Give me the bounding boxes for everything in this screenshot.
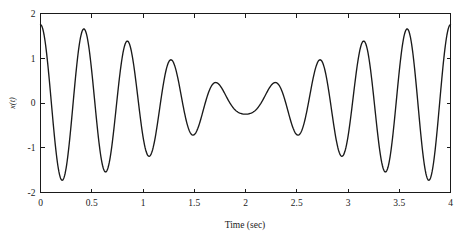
y-axis-ticks xyxy=(41,58,451,148)
x-tick-label: 4 xyxy=(448,198,453,208)
x-tick-label: 3 xyxy=(346,198,351,208)
x-tick-label: 1 xyxy=(141,198,146,208)
x-tick-label: 2 xyxy=(243,198,248,208)
x-tick-label: 0.5 xyxy=(86,198,98,208)
x-axis-title: Time (sec) xyxy=(225,220,266,231)
y-axis-tick-labels: -2-1012 xyxy=(28,9,36,198)
x-tick-label: 3.5 xyxy=(393,198,405,208)
series-line-x-of-t xyxy=(41,25,451,181)
x-tick-label: 2.5 xyxy=(291,198,303,208)
x-axis-tick-labels: 00.511.522.533.54 xyxy=(38,198,453,208)
y-tick-label: -2 xyxy=(28,188,36,198)
y-tick-label: 2 xyxy=(31,9,36,19)
y-tick-label: 0 xyxy=(31,98,36,108)
plot-area: 00.511.522.533.54 -2-1012 Time (sec) x(t… xyxy=(0,0,473,242)
x-tick-label: 0 xyxy=(38,198,43,208)
y-axis-title: x(t) xyxy=(7,97,17,110)
figure-canvas: 00.511.522.533.54 -2-1012 Time (sec) x(t… xyxy=(0,0,473,242)
y-tick-label: 1 xyxy=(31,54,36,64)
x-tick-label: 1.5 xyxy=(188,198,200,208)
y-tick-label: -1 xyxy=(28,143,36,153)
